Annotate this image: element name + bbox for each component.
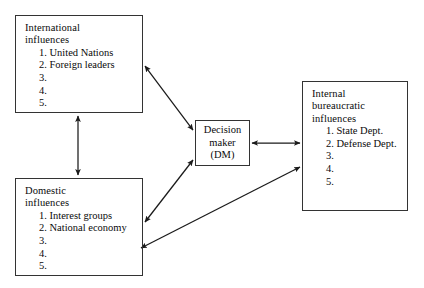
node-international-body: International influences 1. United Natio… [16,16,142,110]
list-item-number: 3. [39,72,47,83]
list-item-number: 5. [39,260,47,271]
list-item: 4. [39,248,142,261]
node-international-title-line2: influences [25,34,142,46]
list-item-number: 4. [39,85,47,96]
list-item-number: 2. [326,138,334,149]
node-decision-maker-body: Decision maker (DM) [204,124,241,162]
node-internal-title-line3: influences [312,113,407,125]
list-item-number: 1. [39,210,47,221]
list-item: 3. [39,72,142,85]
node-decision-maker[interactable]: Decision maker (DM) [195,120,250,166]
list-item-number: 4. [39,248,47,259]
node-internal-title-line1: Internal [312,88,407,100]
list-item-label: State Dept. [337,125,384,136]
list-item: 5. [326,176,407,189]
node-internal-list: 1. State Dept. 2. Defense Dept. 3. 4. 5. [312,125,407,188]
node-international-title-line1: International [25,22,142,34]
node-internal-title-line2: bureaucratic [312,100,407,112]
connector-domestic-dm [145,160,193,222]
list-item-number: 1. [326,125,334,136]
node-international-list: 1. United Nations 2. Foreign leaders 3. … [25,47,142,110]
node-domestic-list: 1. Interest groups 2. National economy 3… [25,210,142,273]
list-item: 2. National economy [39,222,142,235]
list-item-label: United Nations [50,47,114,58]
list-item-number: 3. [326,150,334,161]
list-item: 1. Interest groups [39,210,142,223]
list-item-number: 3. [39,235,47,246]
list-item-label: Defense Dept. [337,138,397,149]
list-item-number: 1. [39,47,47,58]
list-item: 4. [39,85,142,98]
list-item-label: National economy [50,222,127,233]
list-item: 5. [39,260,142,273]
connector-internal-domestic [141,167,300,248]
node-decision-maker-line3: (DM) [204,149,241,162]
list-item: 1. United Nations [39,47,142,60]
node-domestic-body: Domestic influences 1. Interest groups 2… [16,179,142,273]
list-item-number: 5. [39,97,47,108]
node-decision-maker-line2: maker [204,137,241,150]
list-item-label: Foreign leaders [50,59,115,70]
list-item-label: Interest groups [50,210,113,221]
list-item: 5. [39,97,142,110]
node-internal-bureaucratic-influences[interactable]: Internal bureaucratic influences 1. Stat… [302,81,408,211]
list-item: 3. [326,150,407,163]
node-domestic-title-line1: Domestic [25,185,142,197]
list-item: 4. [326,163,407,176]
node-domestic-title-line2: influences [25,197,142,209]
list-item-number: 2. [39,222,47,233]
list-item-number: 4. [326,163,334,174]
list-item-number: 5. [326,176,334,187]
list-item: 2. Foreign leaders [39,59,142,72]
list-item: 3. [39,235,142,248]
diagram-canvas: International influences 1. United Natio… [0,0,424,288]
node-domestic-influences[interactable]: Domestic influences 1. Interest groups 2… [15,178,143,276]
connector-international-dm [145,66,193,130]
list-item-number: 2. [39,59,47,70]
list-item: 2. Defense Dept. [326,138,407,151]
node-internal-body: Internal bureaucratic influences 1. Stat… [303,82,407,188]
list-item: 1. State Dept. [326,125,407,138]
node-international-influences[interactable]: International influences 1. United Natio… [15,15,143,113]
node-decision-maker-line1: Decision [204,124,241,137]
